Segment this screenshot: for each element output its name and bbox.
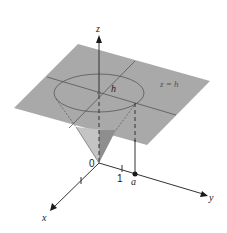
tick-1-label: 1 <box>117 173 123 184</box>
x-axis-label: x <box>41 212 47 223</box>
plane-center-point <box>97 91 101 95</box>
y-axis-label: y <box>208 192 214 203</box>
origin-label: 0 <box>89 158 95 169</box>
cone-surface-dark <box>99 130 116 163</box>
z-axis-label: z <box>95 23 100 34</box>
point-a-label: a <box>131 176 136 187</box>
y-axis-arrow-icon <box>200 191 208 197</box>
x-axis <box>54 163 99 207</box>
plane-label: z = h <box>159 79 179 89</box>
x-axis-arrow-icon <box>50 203 57 211</box>
y-axis <box>99 163 203 194</box>
cone-plane-diagram: z y x 0 1 a h z = h <box>0 0 227 233</box>
height-label: h <box>111 83 116 94</box>
z-axis-arrow-icon <box>96 35 102 43</box>
plane-z-equals-h <box>14 44 210 145</box>
